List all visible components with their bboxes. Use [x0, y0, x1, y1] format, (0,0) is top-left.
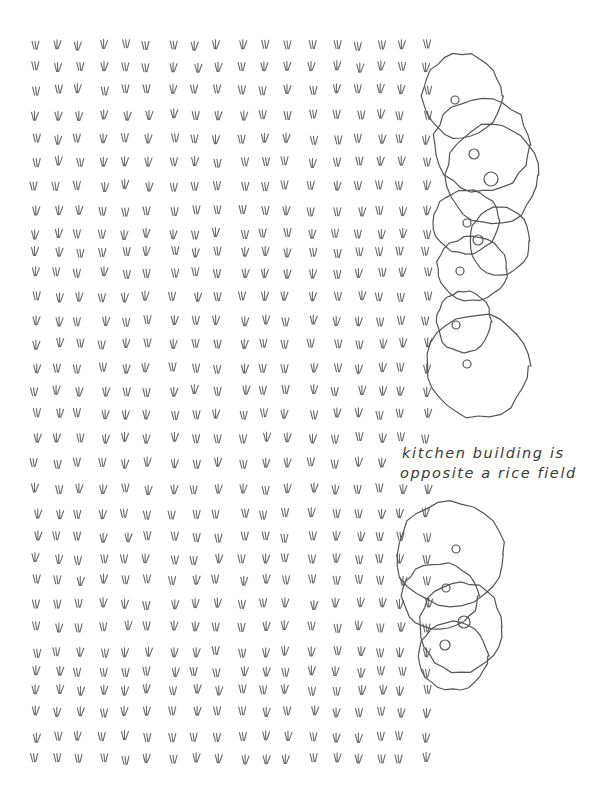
rice-plant-icon — [400, 338, 407, 347]
rice-plant-icon — [32, 553, 39, 562]
rice-plant-icon — [396, 509, 403, 518]
rice-plant-icon — [333, 510, 340, 518]
rice-plant-icon — [425, 408, 432, 417]
rice-plant-icon — [282, 646, 289, 655]
rice-plant-icon — [34, 364, 41, 373]
rice-plant-icon — [238, 86, 245, 94]
rice-plant-icon — [396, 135, 403, 143]
rice-plant-icon — [103, 387, 110, 396]
rice-plant-icon — [261, 133, 268, 142]
rice-plant-icon — [54, 754, 61, 762]
rice-plant-icon — [284, 484, 291, 493]
rice-plant-icon — [400, 228, 407, 237]
rice-plant-icon — [354, 182, 361, 190]
rice-plant-icon — [33, 134, 40, 142]
rice-plant-icon — [262, 183, 269, 191]
rice-plant-icon — [424, 231, 431, 239]
rice-plant-icon — [169, 707, 176, 715]
rice-plant-icon — [53, 385, 60, 394]
rice-plant-icon — [56, 554, 63, 563]
rice-plant-icon — [377, 576, 384, 584]
rice-plant-icon — [376, 555, 383, 563]
rice-plant-icon — [308, 647, 315, 656]
rice-plant-icon — [354, 134, 361, 142]
rice-plant-icon — [144, 706, 151, 715]
rice-plant-icon — [32, 685, 39, 694]
rice-plant-icon — [143, 207, 150, 215]
rice-plant-icon — [122, 756, 129, 764]
rice-plant-icon — [333, 531, 340, 540]
rice-plant-icon — [281, 365, 288, 373]
rice-plant-icon — [142, 554, 149, 563]
rice-plant-icon — [171, 208, 178, 216]
rice-plant-icon — [171, 621, 178, 630]
rice-plant-icon — [425, 292, 432, 300]
rice-plant-icon — [143, 622, 150, 630]
rice-plant-icon — [396, 247, 403, 255]
rice-plant-icon — [357, 598, 364, 607]
rice-plant-icon — [146, 647, 153, 656]
rice-plant-icon — [262, 486, 269, 494]
rice-plant-icon — [121, 706, 128, 715]
rice-plant-icon — [146, 182, 153, 191]
rice-plant-icon — [358, 668, 365, 677]
rice-plant-icon — [214, 340, 221, 348]
rice-plant-marks — [30, 39, 433, 764]
rice-plant-icon — [424, 387, 431, 396]
rice-plant-icon — [100, 485, 107, 494]
rice-plant-icon — [242, 158, 249, 166]
rice-plant-icon — [283, 133, 290, 142]
rice-plant-icon — [32, 247, 39, 256]
rice-plant-icon — [359, 207, 366, 216]
rice-plant-icon — [242, 231, 249, 239]
rice-plant-icon — [172, 600, 179, 609]
rice-plant-icon — [379, 363, 386, 372]
rice-plant-icon — [260, 339, 267, 347]
rice-plant-icon — [192, 622, 199, 631]
rice-plant-icon — [171, 485, 178, 494]
rice-plant-icon — [55, 156, 62, 165]
rice-plant-icon — [142, 64, 149, 72]
rice-plant-icon — [377, 624, 384, 632]
rice-plant-icon — [284, 112, 291, 120]
rice-plant-icon — [145, 485, 152, 494]
rice-plant-icon — [77, 577, 84, 586]
rice-plant-icon — [332, 485, 339, 494]
rice-plant-icon — [101, 39, 108, 48]
rice-plant-icon — [170, 158, 177, 166]
rice-plant-icon — [100, 533, 107, 542]
rice-plant-icon — [284, 61, 291, 70]
rice-plant-icon — [284, 269, 291, 278]
rice-plant-icon — [32, 41, 39, 49]
rice-plant-icon — [33, 87, 40, 95]
rice-plant-icon — [399, 267, 406, 276]
rice-plant-icon — [400, 207, 407, 216]
rice-plant-icon — [355, 457, 362, 466]
rice-plant-icon — [193, 460, 200, 468]
rice-plant-icon — [122, 459, 129, 468]
rice-plant-icon — [284, 458, 291, 467]
rice-plant-icon — [424, 685, 431, 693]
rice-plant-icon — [309, 555, 316, 563]
rice-plant-icon — [54, 576, 61, 584]
rice-plant-icon — [214, 182, 221, 190]
rice-plant-icon — [33, 622, 40, 630]
rice-plant-icon — [125, 621, 132, 630]
rice-plant-icon — [242, 269, 249, 278]
rice-plant-icon — [33, 292, 40, 300]
rice-plant-icon — [170, 183, 177, 191]
rice-plant-icon — [143, 511, 150, 519]
rice-plant-icon — [171, 532, 178, 540]
rice-plant-icon — [144, 457, 151, 466]
rice-plant-icon — [168, 511, 175, 519]
rice-plant-icon — [33, 666, 40, 675]
rice-plant-icon — [190, 733, 197, 741]
rice-plant-icon — [35, 531, 42, 540]
rice-plant-icon — [354, 42, 361, 50]
rice-plant-icon — [214, 365, 221, 373]
rice-plant-icon — [169, 577, 176, 585]
rice-plant-icon — [213, 228, 220, 237]
rice-plant-icon — [76, 205, 83, 214]
rice-plant-icon — [55, 85, 62, 93]
rice-plant-icon — [331, 460, 338, 468]
